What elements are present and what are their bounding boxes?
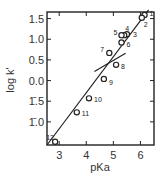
y-tick-label: 1̄.0 xyxy=(29,116,44,128)
data-point xyxy=(86,96,91,101)
data-point xyxy=(101,76,106,81)
point-label: 9 xyxy=(109,79,113,86)
x-tick-label: 3 xyxy=(56,149,62,161)
point-label: 2 xyxy=(144,21,148,28)
y-tick-label: 1.5 xyxy=(29,13,44,25)
point-label: 8 xyxy=(121,63,125,70)
point-label: 11 xyxy=(82,110,89,117)
point-label: 3 xyxy=(133,31,137,38)
point-label: 10 xyxy=(94,96,102,103)
x-axis-label: pKa xyxy=(90,161,110,173)
point-label: 5 xyxy=(113,29,117,36)
point-label: 7 xyxy=(100,46,104,53)
y-tick-label: 0.5 xyxy=(29,54,44,66)
data-point xyxy=(113,62,118,67)
plot-frame xyxy=(47,12,154,145)
x-tick-label: 5 xyxy=(110,149,116,161)
y-tick-label: 0.0 xyxy=(29,75,44,87)
x-tick-label: 4 xyxy=(83,149,89,161)
point-label: 12 xyxy=(46,134,54,141)
data-point xyxy=(74,110,79,115)
data-point xyxy=(139,15,144,20)
x-tick-label: 6 xyxy=(137,149,143,161)
y-tick-label: 1̄.5 xyxy=(29,95,44,107)
fit-line-main xyxy=(47,10,149,145)
y-tick-label: 1.0 xyxy=(29,33,44,45)
data-point xyxy=(119,33,124,38)
fit-lines xyxy=(47,10,149,145)
data-point xyxy=(119,40,124,45)
chart: 3456 1.51.00.50.01̄.51̄.0 12345678910111… xyxy=(0,0,167,184)
y-axis-label: log k' xyxy=(4,67,16,92)
point-label: 1 xyxy=(150,10,154,17)
data-point xyxy=(107,50,112,55)
point-label: 6 xyxy=(126,41,130,48)
point-label: 4 xyxy=(125,25,129,32)
